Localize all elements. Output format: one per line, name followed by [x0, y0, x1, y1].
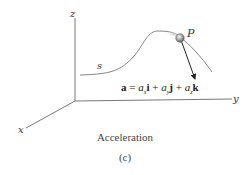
figure-subcaption: (c) — [85, 151, 165, 163]
point-label: P — [187, 27, 194, 40]
x-axis-label: x — [18, 124, 24, 135]
y-axis — [75, 99, 232, 101]
path-label: s — [97, 60, 102, 71]
figure-caption: Acceleration — [85, 131, 165, 143]
z-axis-label: z — [70, 8, 75, 19]
acceleration-vector — [181, 40, 195, 79]
acceleration-equation: a = axi + ayj + azk — [121, 81, 199, 95]
acceleration-diagram: z y x s P a = axi + ayj + azk Accelerati… — [0, 0, 244, 175]
y-axis-label: y — [233, 93, 239, 104]
x-axis — [26, 101, 75, 128]
particle-p — [176, 34, 184, 42]
eq-lhs: a — [121, 81, 127, 93]
